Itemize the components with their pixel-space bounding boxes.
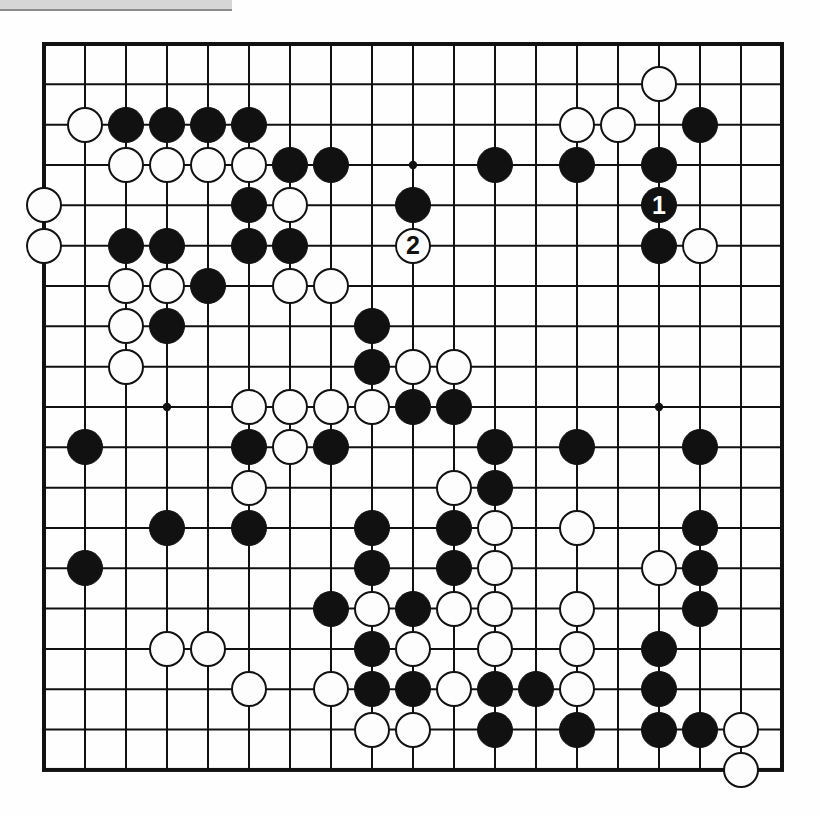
black-stone[interactable] [641, 712, 677, 748]
move-number-label: 2 [406, 233, 420, 258]
white-stone[interactable] [313, 389, 349, 425]
white-stone[interactable] [436, 591, 472, 627]
white-stone[interactable] [354, 389, 390, 425]
black-stone[interactable] [518, 671, 554, 707]
white-stone[interactable] [108, 349, 144, 385]
black-stone[interactable] [436, 510, 472, 546]
white-stone[interactable] [559, 591, 595, 627]
black-stone[interactable] [682, 712, 718, 748]
black-stone[interactable] [477, 671, 513, 707]
black-stone[interactable] [477, 147, 513, 183]
black-stone[interactable] [231, 107, 267, 143]
black-stone[interactable] [395, 591, 431, 627]
white-stone[interactable] [231, 470, 267, 506]
black-stone[interactable] [190, 107, 226, 143]
go-board-container[interactable]: 12 [0, 0, 820, 816]
go-diagram-page: 12 [0, 0, 820, 816]
white-stone[interactable] [108, 268, 144, 304]
go-board[interactable]: 12 [44, 44, 782, 770]
black-stone[interactable] [354, 349, 390, 385]
white-stone[interactable] [436, 470, 472, 506]
white-stone[interactable] [190, 631, 226, 667]
black-stone[interactable] [149, 510, 185, 546]
white-stone[interactable] [477, 591, 513, 627]
white-stone[interactable] [723, 712, 759, 748]
white-stone[interactable] [436, 671, 472, 707]
black-stone[interactable] [641, 631, 677, 667]
black-stone[interactable] [108, 107, 144, 143]
white-stone[interactable] [313, 268, 349, 304]
white-stone[interactable] [477, 631, 513, 667]
white-stone[interactable] [682, 228, 718, 264]
black-stone[interactable] [559, 712, 595, 748]
black-stone[interactable] [231, 228, 267, 264]
black-stone[interactable] [354, 671, 390, 707]
white-stone[interactable] [354, 591, 390, 627]
white-stone[interactable] [67, 107, 103, 143]
white-stone[interactable] [231, 389, 267, 425]
move-marker-stone-2[interactable]: 2 [395, 228, 431, 264]
white-stone[interactable] [190, 147, 226, 183]
white-stone[interactable] [559, 671, 595, 707]
white-stone[interactable] [149, 147, 185, 183]
white-stone[interactable] [149, 631, 185, 667]
white-stone[interactable] [723, 752, 759, 788]
white-stone[interactable] [272, 268, 308, 304]
black-stone[interactable] [559, 147, 595, 183]
white-stone[interactable] [231, 147, 267, 183]
white-stone[interactable] [149, 268, 185, 304]
black-stone[interactable] [395, 671, 431, 707]
white-stone[interactable] [395, 349, 431, 385]
black-stone[interactable] [231, 510, 267, 546]
black-stone[interactable] [395, 389, 431, 425]
black-stone[interactable] [313, 147, 349, 183]
white-stone[interactable] [108, 147, 144, 183]
black-stone[interactable] [149, 107, 185, 143]
black-stone[interactable] [354, 631, 390, 667]
black-stone[interactable] [436, 389, 472, 425]
black-stone[interactable] [641, 147, 677, 183]
white-stone[interactable] [559, 510, 595, 546]
black-stone[interactable] [272, 228, 308, 264]
black-stone[interactable] [477, 712, 513, 748]
black-stone[interactable] [641, 671, 677, 707]
white-stone[interactable] [272, 389, 308, 425]
white-stone[interactable] [231, 671, 267, 707]
black-stone[interactable] [313, 591, 349, 627]
white-stone[interactable] [559, 631, 595, 667]
white-stone[interactable] [26, 228, 62, 264]
black-stone[interactable] [477, 470, 513, 506]
black-stone[interactable] [149, 228, 185, 264]
white-stone[interactable] [559, 107, 595, 143]
black-stone[interactable] [190, 268, 226, 304]
white-stone[interactable] [395, 631, 431, 667]
white-stone[interactable] [395, 712, 431, 748]
black-stone[interactable] [354, 510, 390, 546]
white-stone[interactable] [313, 671, 349, 707]
white-stone[interactable] [600, 107, 636, 143]
white-stone[interactable] [477, 510, 513, 546]
black-stone[interactable] [682, 591, 718, 627]
black-stone[interactable] [682, 510, 718, 546]
move-number-label: 1 [652, 193, 666, 218]
white-stone[interactable] [436, 349, 472, 385]
black-stone[interactable] [682, 107, 718, 143]
white-stone[interactable] [354, 712, 390, 748]
black-stone[interactable] [641, 228, 677, 264]
black-stone[interactable] [108, 228, 144, 264]
black-stone[interactable] [272, 147, 308, 183]
